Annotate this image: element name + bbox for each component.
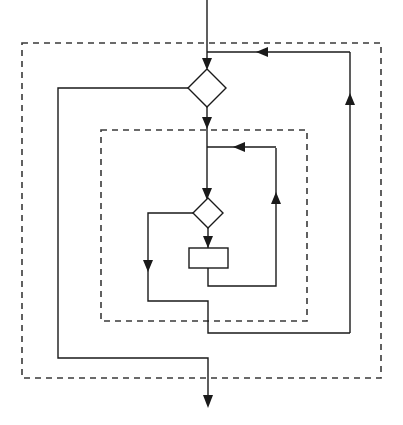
- exit-arrowhead: [203, 395, 213, 408]
- outer-return-arrowhead: [345, 93, 355, 105]
- outer-decision-false-branch: [58, 88, 208, 405]
- inner-top-join-arrowhead: [233, 142, 245, 152]
- inner-false-arrowhead: [143, 260, 153, 272]
- flowchart-svg: [0, 0, 403, 425]
- outer-feedback-arrowhead: [256, 47, 268, 57]
- process-entry-arrowhead: [203, 236, 213, 248]
- outer-to-inner-arrowhead: [202, 117, 212, 129]
- inner-decision-diamond[interactable]: [193, 198, 223, 228]
- process-rectangle[interactable]: [189, 248, 228, 268]
- outer-decision-diamond[interactable]: [188, 69, 226, 107]
- flowchart-canvas: [0, 0, 403, 425]
- inner-decision-false-branch: [148, 213, 350, 333]
- arrow-heads: [143, 47, 355, 408]
- inner-loopback-arrowhead: [271, 192, 281, 204]
